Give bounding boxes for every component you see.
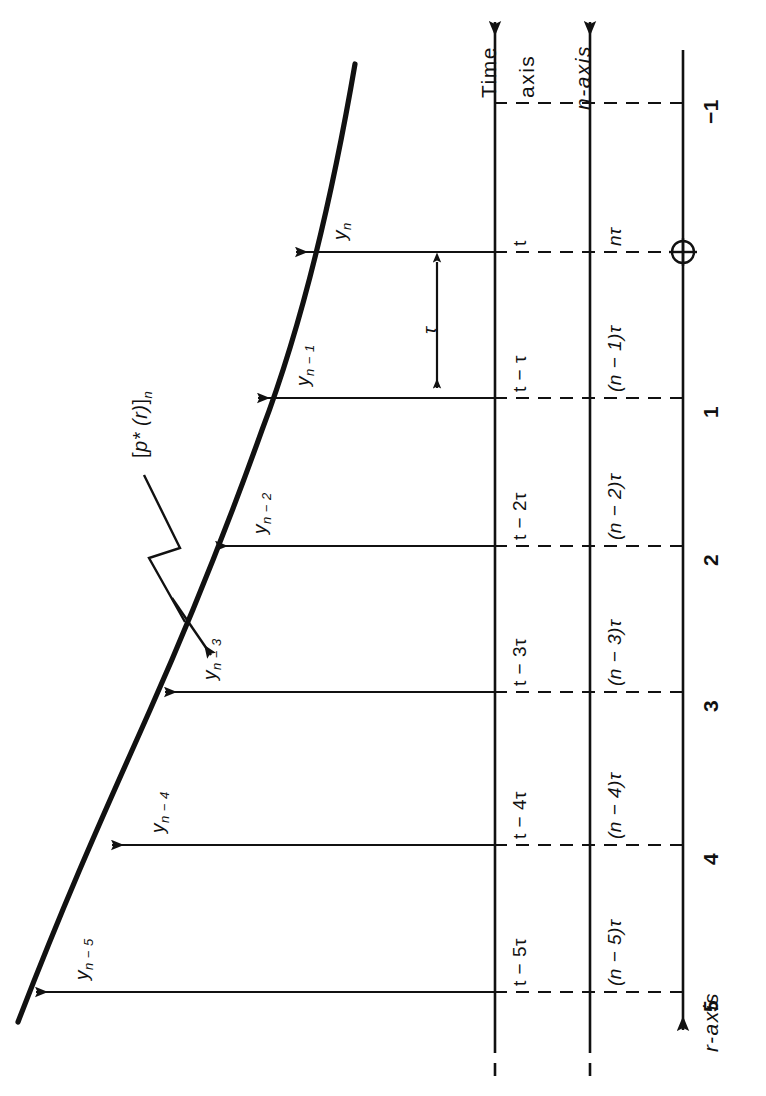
sample-label-y-n: yn bbox=[330, 222, 353, 240]
curve-label-sub: n bbox=[140, 391, 155, 399]
sample-label-base: y bbox=[199, 670, 220, 680]
curve-label-body: p* (r) bbox=[129, 404, 151, 451]
n-tick-n-5-tau: (n − 5)τ bbox=[605, 919, 624, 986]
figure-drawing bbox=[0, 0, 766, 1096]
sample-label-sub: n bbox=[339, 222, 354, 230]
time-tick-t-minus-5tau: t − 5τ bbox=[510, 938, 529, 986]
r-tick-1: 1 bbox=[700, 406, 721, 418]
n-tick-n-2-tau: (n − 2)τ bbox=[605, 473, 624, 540]
curve-label-leader bbox=[144, 475, 211, 655]
r-tick-3: 3 bbox=[700, 700, 721, 712]
figure-root: Time axis n-axis r-axis t t − τ t − 2τ t… bbox=[0, 0, 766, 1096]
r-tick-4: 4 bbox=[700, 853, 721, 865]
sample-label-base: y bbox=[71, 970, 92, 980]
curve-label-bracket-close: ] bbox=[129, 398, 151, 404]
time-tick-t-minus-tau: t − τ bbox=[510, 355, 529, 392]
curve-label-bracket-open: [ bbox=[129, 452, 151, 458]
n-tick-n-4-tau: (n − 4)τ bbox=[605, 772, 624, 839]
sample-label-y-n-5: yn − 5 bbox=[72, 938, 95, 980]
sample-label-sub: n − 2 bbox=[259, 492, 274, 524]
time-axis-name-line1: Time bbox=[478, 46, 499, 98]
n-tick-n-tau: nτ bbox=[605, 227, 624, 246]
sample-label-base: y bbox=[249, 524, 270, 534]
axis-lines bbox=[495, 22, 683, 1078]
envelope-curve bbox=[18, 64, 355, 1022]
time-tick-t-minus-4tau: t − 4τ bbox=[510, 791, 529, 839]
time-tick-t-minus-2tau: t − 2τ bbox=[510, 492, 529, 540]
sample-label-y-n-3: yn − 3 bbox=[200, 638, 223, 680]
sample-label-y-n-1: yn − 1 bbox=[293, 344, 316, 386]
n-tick-n-1-tau: (n − 1)τ bbox=[605, 325, 624, 392]
sample-label-base: y bbox=[147, 823, 168, 833]
tau-interval-label: τ bbox=[420, 326, 439, 334]
sample-label-base: y bbox=[329, 230, 350, 240]
sample-label-y-n-4: yn − 4 bbox=[148, 791, 171, 833]
time-axis-name-line2: axis bbox=[516, 55, 537, 98]
r-tick-minus-1: −1 bbox=[700, 99, 721, 124]
sample-label-sub: n − 4 bbox=[157, 791, 172, 823]
sample-label-base: y bbox=[292, 376, 313, 386]
sample-label-sub: n − 1 bbox=[302, 344, 317, 376]
n-tick-n-3-tau: (n − 3)τ bbox=[605, 619, 624, 686]
sample-label-y-n-2: yn − 2 bbox=[250, 492, 273, 534]
sample-label-sub: n − 3 bbox=[209, 638, 224, 670]
r-tick-2: 2 bbox=[700, 554, 721, 566]
curve-label: [p* (r)]n bbox=[130, 391, 154, 458]
time-tick-t: t bbox=[510, 240, 529, 246]
sample-label-sub: n − 5 bbox=[81, 938, 96, 970]
time-tick-t-minus-3tau: t − 3τ bbox=[510, 638, 529, 686]
origin-circled-plus-icon bbox=[669, 238, 697, 266]
sample-stems bbox=[36, 103, 683, 992]
r-tick-5: 5 bbox=[700, 1000, 721, 1012]
n-axis-name: n-axis bbox=[572, 45, 593, 110]
